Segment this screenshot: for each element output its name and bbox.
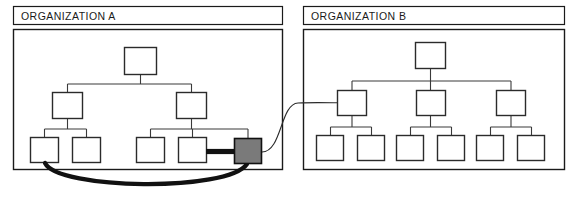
- panel-b-title: ORGANIZATION B: [311, 10, 406, 22]
- organization-network-diagram: ORGANIZATION A: [0, 0, 575, 198]
- node-a-root: [125, 48, 157, 75]
- node-b-leaf-6: [518, 136, 545, 161]
- panel-a-title: ORGANIZATION A: [21, 10, 116, 22]
- node-b-leaf-5: [477, 136, 504, 161]
- panel-organization-b: ORGANIZATION B: [304, 7, 565, 170]
- node-a-leaf-5-highlighted: [235, 139, 262, 164]
- node-a-mid-2: [177, 93, 207, 119]
- diagram-canvas: ORGANIZATION A: [0, 0, 575, 198]
- node-b-mid-2: [417, 91, 446, 116]
- node-a-leaf-4: [179, 138, 207, 163]
- node-a-leaf-3: [137, 138, 165, 163]
- node-a-leaf-2: [73, 138, 101, 163]
- node-b-leaf-2: [358, 136, 385, 161]
- node-b-leaf-3: [397, 136, 424, 161]
- node-b-leaf-4: [438, 136, 465, 161]
- node-a-mid-1: [53, 93, 83, 119]
- node-b-root: [416, 43, 446, 69]
- node-b-mid-1: [338, 91, 367, 116]
- node-b-mid-3: [497, 91, 526, 116]
- node-b-leaf-1: [317, 136, 344, 161]
- node-a-leaf-1: [31, 138, 59, 163]
